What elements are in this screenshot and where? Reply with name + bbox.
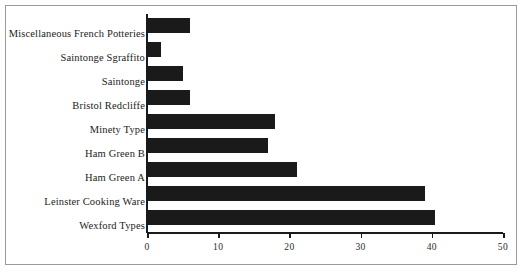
bar-chart-figure: Miscellaneous French Potteries Saintonge… (0, 0, 523, 273)
bar-leinster-cooking-ware (147, 186, 425, 201)
category-label-saintonge-sgraffito: Saintonge Sgraffito (0, 53, 145, 64)
x-axis-tick-10 (218, 233, 220, 238)
x-axis-tick-label-20: 20 (269, 242, 309, 252)
category-label-saintonge: Saintonge (0, 77, 145, 88)
category-label-ham-green-a: Ham Green A (0, 173, 145, 184)
x-axis-tick-label-10: 10 (198, 242, 238, 252)
bar-ham-green-b (147, 138, 268, 153)
bar-saintonge (147, 66, 183, 81)
category-label-bristol-redcliffe: Bristol Redcliffe (0, 101, 145, 112)
bar-minety-type (147, 114, 275, 129)
x-axis-tick-label-0: 0 (127, 242, 167, 252)
x-axis-tick-20 (289, 233, 291, 238)
bar-bristol-redcliffe (147, 90, 190, 105)
x-axis-tick-0 (147, 233, 149, 238)
x-axis-tick-label-30: 30 (341, 242, 381, 252)
chart-plot-area: Miscellaneous French Potteries Saintonge… (0, 0, 523, 273)
bar-miscellaneous-french-potteries (147, 18, 190, 33)
category-label-minety-type: Minety Type (0, 125, 145, 136)
x-axis-tick-label-50: 50 (483, 242, 523, 252)
bar-saintonge-sgraffito (147, 42, 161, 57)
category-label-miscellaneous-french-potteries: Miscellaneous French Potteries (0, 29, 145, 40)
x-axis-line (147, 232, 503, 234)
category-label-wexford-types: Wexford Types (0, 221, 145, 232)
category-label-leinster-cooking-ware: Leinster Cooking Ware (0, 197, 145, 208)
x-axis-tick-40 (432, 233, 434, 238)
x-axis-tick-30 (361, 233, 363, 238)
bar-wexford-types (147, 210, 435, 225)
category-label-ham-green-b: Ham Green B (0, 149, 145, 160)
y-axis-line (146, 14, 148, 233)
x-axis-tick-label-40: 40 (412, 242, 452, 252)
bar-ham-green-a (147, 162, 297, 177)
x-axis-tick-50 (503, 233, 505, 238)
